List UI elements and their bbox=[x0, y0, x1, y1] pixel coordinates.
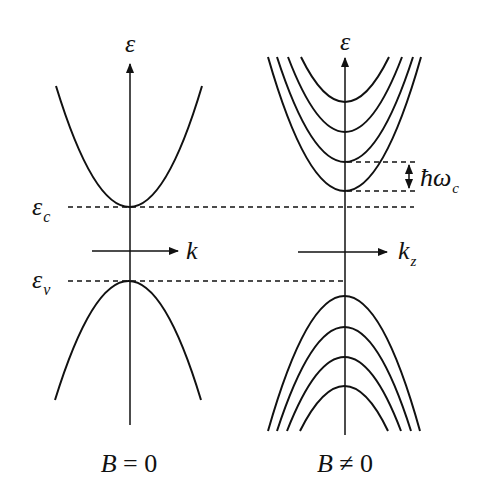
valence-landau-level-1 bbox=[277, 327, 411, 431]
caption-b-zero: B = 0 bbox=[101, 449, 158, 478]
conduction-band-curve bbox=[56, 86, 202, 207]
conduction-edge-label: εc bbox=[32, 192, 50, 225]
valence-band-curve bbox=[55, 281, 201, 400]
valence-landau-level-3 bbox=[300, 386, 388, 431]
valence-landau-level-2 bbox=[287, 357, 401, 431]
panel-b-zero: ε k εc εv B = 0 bbox=[32, 29, 202, 478]
valence-landau-level-0 bbox=[268, 296, 420, 431]
caption-b-nonzero: B ≠ 0 bbox=[317, 449, 373, 478]
cyclotron-energy-label: ħωc bbox=[420, 163, 459, 196]
energy-axis-label-right: ε bbox=[340, 27, 351, 56]
k-axis-label-left: k bbox=[186, 236, 198, 265]
energy-axis-label-left: ε bbox=[125, 29, 136, 58]
band-structure-diagram: ε k εc εv B = 0 ε kz bbox=[0, 0, 483, 499]
kz-axis-label: kz bbox=[398, 236, 417, 269]
valence-edge-label: εv bbox=[32, 265, 51, 298]
panel-b-nonzero: ε kz ħωc B ≠ 0 bbox=[268, 27, 459, 478]
